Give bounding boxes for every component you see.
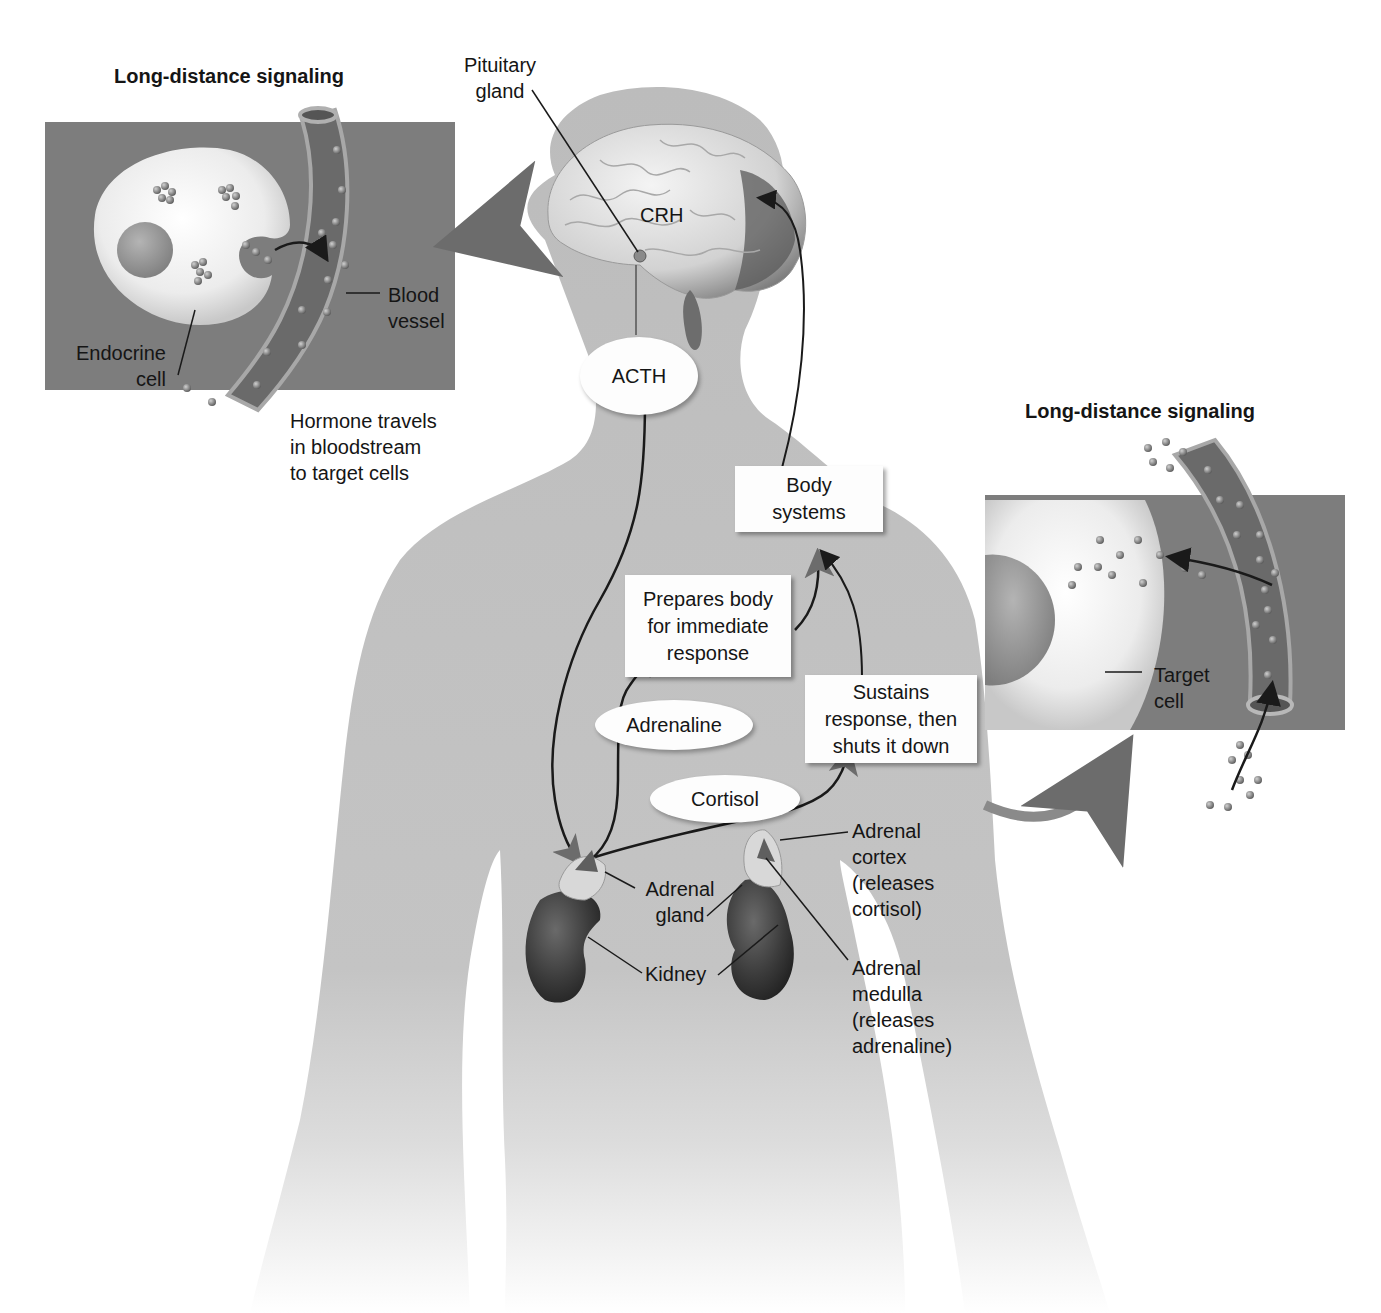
adrenal-medulla-label: Adrenal medulla (releases adrenaline) xyxy=(852,955,952,1059)
caption-line2: in bloodstream xyxy=(290,434,437,460)
pituitary-label-line2: gland xyxy=(452,78,548,104)
right-panel-art xyxy=(985,438,1345,811)
sustains-response-box: Sustains response, then shuts it down xyxy=(805,675,977,763)
adrenal-cortex-label: Adrenal cortex (releases cortisol) xyxy=(852,818,934,922)
right-panel-title: Long-distance signaling xyxy=(1025,400,1255,423)
caption-line3: to target cells xyxy=(290,460,437,486)
prepares-line2: for immediate xyxy=(647,613,768,640)
adrenal-gland-line2: gland xyxy=(635,902,725,928)
target-cell-line1: Target xyxy=(1154,662,1210,688)
cortex-line4: cortisol) xyxy=(852,896,934,922)
cortisol-oval: Cortisol xyxy=(650,775,800,823)
cortex-line3: (releases xyxy=(852,870,934,896)
caption-line1: Hormone travels xyxy=(290,408,437,434)
cortex-line2: cortex xyxy=(852,844,934,870)
target-cell-label: Target cell xyxy=(1154,662,1210,714)
prepares-body-box: Prepares body for immediate response xyxy=(625,575,791,677)
medulla-line3: (releases xyxy=(852,1007,952,1033)
target-cell-line2: cell xyxy=(1154,688,1210,714)
left-panel-title: Long-distance signaling xyxy=(114,65,344,88)
medulla-line2: medulla xyxy=(852,981,952,1007)
left-panel-caption: Hormone travels in bloodstream to target… xyxy=(290,408,437,486)
blood-vessel-label-line1: Blood xyxy=(388,282,445,308)
endocrine-cell-label: Endocrine cell xyxy=(58,340,166,392)
sustains-line1: Sustains xyxy=(853,679,930,706)
adrenal-gland-label: Adrenal gland xyxy=(635,876,725,928)
adrenal-gland-line1: Adrenal xyxy=(635,876,725,902)
prepares-line1: Prepares body xyxy=(643,586,773,613)
crh-label: CRH xyxy=(640,202,683,228)
kidney-label: Kidney xyxy=(645,961,706,987)
adrenaline-oval: Adrenaline xyxy=(595,700,753,750)
prepares-line3: response xyxy=(667,640,749,667)
acth-oval: ACTH xyxy=(580,337,698,415)
body-systems-box: Body systems xyxy=(735,466,883,532)
endocrine-cell-label-line1: Endocrine xyxy=(58,340,166,366)
endocrine-cell-label-line2: cell xyxy=(58,366,166,392)
sustains-line3: shuts it down xyxy=(833,733,950,760)
body-systems-line1: Body xyxy=(786,472,832,499)
pituitary-label-line1: Pituitary xyxy=(452,52,548,78)
medulla-line1: Adrenal xyxy=(852,955,952,981)
pituitary-gland-label: Pituitary gland xyxy=(452,52,548,104)
medulla-line4: adrenaline) xyxy=(852,1033,952,1059)
body-systems-line2: systems xyxy=(772,499,845,526)
cortex-line1: Adrenal xyxy=(852,818,934,844)
sustains-line2: response, then xyxy=(825,706,957,733)
blood-vessel-label-line2: vessel xyxy=(388,308,445,334)
blood-vessel-label: Blood vessel xyxy=(388,282,445,334)
